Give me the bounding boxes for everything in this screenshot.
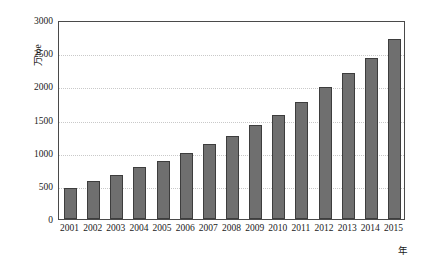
y-tick-label: 1000: [0, 149, 53, 159]
x-tick-label: 2013: [338, 223, 357, 233]
x-tick-label: 2012: [315, 223, 334, 233]
bar: [342, 73, 355, 219]
x-tick-label: 2006: [176, 223, 195, 233]
x-tick-label: 2004: [129, 223, 148, 233]
x-tick-label: 2008: [222, 223, 241, 233]
bar: [133, 167, 146, 219]
x-tick-label: 2011: [292, 223, 311, 233]
x-tick-label: 2002: [83, 223, 102, 233]
y-tick-label: 3000: [0, 16, 53, 26]
x-tick-label: 2007: [199, 223, 218, 233]
y-tick-label: 1500: [0, 116, 53, 126]
y-tick-label: 500: [0, 182, 53, 192]
bar-chart-figure: 万toe 050010001500200025003000 2001200220…: [0, 0, 427, 269]
bar: [319, 87, 332, 219]
x-tick-label: 2005: [153, 223, 172, 233]
x-tick-label: 2009: [245, 223, 264, 233]
x-tick-label: 2015: [384, 223, 403, 233]
x-tick-label: 2014: [361, 223, 380, 233]
bar: [226, 136, 239, 219]
bar: [203, 144, 216, 219]
bar: [249, 125, 262, 219]
bar: [110, 175, 123, 219]
x-tick-label: 2010: [268, 223, 287, 233]
bar: [180, 153, 193, 219]
y-tick-label: 2500: [0, 49, 53, 59]
x-tick-label: 2003: [106, 223, 125, 233]
plot-area: [58, 21, 405, 220]
bar: [365, 58, 378, 219]
bar: [388, 39, 401, 219]
x-axis-tick-labels: 2001200220032004200520062007200820092010…: [58, 223, 405, 239]
x-tick-label: 2001: [60, 223, 79, 233]
y-axis-tick-labels: 050010001500200025003000: [0, 0, 56, 269]
bar: [64, 188, 77, 219]
bar: [295, 102, 308, 219]
bar: [157, 161, 170, 219]
bar-series: [59, 22, 404, 219]
bar: [87, 181, 100, 219]
y-tick-label: 2000: [0, 82, 53, 92]
bar: [272, 115, 285, 219]
x-axis-title: 年: [398, 243, 408, 257]
y-tick-label: 0: [0, 215, 53, 225]
